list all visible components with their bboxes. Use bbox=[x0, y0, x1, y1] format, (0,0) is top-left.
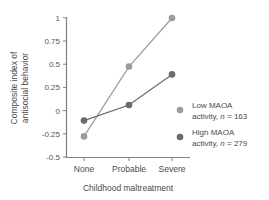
chart-legend: Low MAOA activity, n = 163 High MAOA act… bbox=[177, 101, 248, 148]
x-axis-title: Childhood maltreatment bbox=[83, 183, 174, 193]
y-axis-title-line1: Composite index of bbox=[9, 51, 19, 124]
data-point-low-probable bbox=[126, 63, 133, 70]
series-high-maoa bbox=[81, 71, 176, 124]
y-axis-tick-labels: 1 0.75 0.5 0.25 0 -0.25 -0.5 bbox=[42, 14, 61, 162]
y-tick-label: -0.5 bbox=[46, 153, 60, 162]
data-point-low-severe bbox=[169, 15, 176, 22]
y-tick-label: 0 bbox=[56, 107, 61, 116]
data-point-high-probable bbox=[126, 102, 133, 109]
legend-high-suffix: = 279 bbox=[225, 139, 248, 148]
series-low-maoa-line bbox=[84, 18, 172, 136]
legend-low-suffix: = 163 bbox=[225, 112, 248, 121]
legend-marker-high-maoa-icon bbox=[177, 134, 184, 141]
x-category-label-none: None bbox=[74, 164, 95, 174]
legend-marker-low-maoa-icon bbox=[177, 107, 184, 114]
y-tick-label: 1 bbox=[56, 14, 61, 23]
x-axis-category-labels: None Probable Severe bbox=[74, 164, 186, 174]
data-point-high-severe bbox=[169, 71, 176, 78]
legend-label-low-maoa-line1: Low MAOA bbox=[192, 101, 233, 110]
data-point-high-none bbox=[81, 117, 88, 124]
y-axis-title: Composite index of antisocial behavior bbox=[9, 51, 30, 124]
legend-item-high-maoa[interactable]: High MAOA activity, n = 279 bbox=[177, 128, 248, 148]
legend-label-high-maoa-line1: High MAOA bbox=[192, 128, 235, 137]
series-high-maoa-line bbox=[84, 74, 172, 120]
chart-figure: 1 0.75 0.5 0.25 0 -0.25 -0.5 None Probab… bbox=[0, 0, 269, 200]
series-low-maoa bbox=[81, 15, 176, 140]
data-point-low-none bbox=[81, 133, 88, 140]
y-tick-label: 0.25 bbox=[44, 83, 60, 92]
legend-low-prefix: activity, bbox=[192, 112, 220, 121]
y-axis-title-line2: antisocial behavior bbox=[20, 53, 30, 124]
legend-label-low-maoa-line2: activity, n = 163 bbox=[192, 112, 248, 121]
legend-item-low-maoa[interactable]: Low MAOA activity, n = 163 bbox=[177, 101, 248, 121]
y-tick-label: 0.75 bbox=[44, 37, 60, 46]
antisocial-behavior-line-chart: 1 0.75 0.5 0.25 0 -0.25 -0.5 None Probab… bbox=[0, 0, 269, 200]
x-category-label-severe: Severe bbox=[159, 164, 186, 174]
y-tick-label: 0.5 bbox=[49, 60, 61, 69]
legend-label-high-maoa-line2: activity, n = 279 bbox=[192, 139, 248, 148]
x-category-label-probable: Probable bbox=[112, 164, 146, 174]
legend-high-prefix: activity, bbox=[192, 139, 220, 148]
y-tick-label: -0.25 bbox=[42, 130, 61, 139]
